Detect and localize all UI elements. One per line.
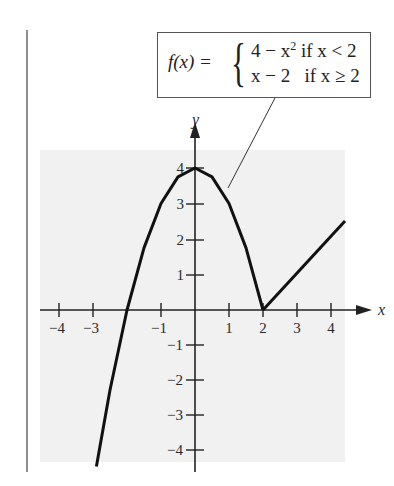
brace-icon: { (231, 35, 246, 91)
x-tick-label: −4 (49, 320, 65, 336)
y-tick-label: −1 (167, 337, 183, 353)
y-tick-label: −2 (167, 372, 183, 388)
y-axis-label: y (190, 111, 200, 129)
y-tick-label: −4 (167, 442, 183, 458)
equation-case-1: 4 − x2 if x < 2 (251, 39, 357, 62)
x-tick-label: 2 (259, 320, 267, 336)
equation-lhs: f(x) = (168, 51, 212, 73)
y-tick-label: 1 (177, 267, 185, 283)
case-1-expression: 4 − x (251, 40, 290, 61)
x-axis-label: x (377, 301, 385, 318)
x-tick-label: 3 (293, 320, 301, 336)
figure: −4 −3 −1 1 2 3 4 1 2 3 4 −1 −2 −3 −4 x y… (0, 0, 394, 486)
x-tick-label: 1 (225, 320, 233, 336)
y-tick-label: −3 (167, 407, 183, 423)
case-1-condition: if x < 2 (301, 40, 357, 61)
x-tick-label: −1 (151, 320, 167, 336)
x-tick-label: −3 (83, 320, 99, 336)
equation-callout: f(x) = { 4 − x2 if x < 2 x − 2 if x ≥ 2 (157, 32, 371, 98)
y-tick-label: 2 (177, 232, 185, 248)
case-2-condition: if x ≥ 2 (304, 65, 359, 86)
x-tick-label: 4 (327, 320, 335, 336)
equation-case-2: x − 2 if x ≥ 2 (251, 65, 360, 87)
case-1-exponent: 2 (290, 39, 296, 53)
y-tick-label: 3 (177, 196, 185, 212)
case-2-expression: x − 2 (251, 65, 290, 86)
x-axis-arrow-icon (356, 305, 372, 315)
